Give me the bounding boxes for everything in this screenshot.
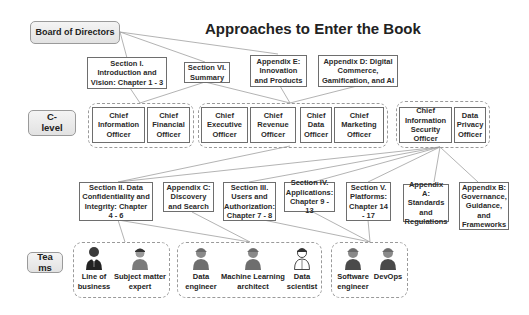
cmo-box: Chief Marketing Officer: [334, 107, 384, 143]
person-software-engineer: Software engineer: [333, 246, 373, 292]
section-iv-box: Section IV. Applications: Chapter 9 - 13: [284, 182, 335, 212]
level-label-teams: Tea ms: [27, 252, 63, 273]
section-iii-box: Section III. Users and Authorization: Ch…: [223, 182, 276, 221]
appendix-c-box: Appendix C: Discovery and Search: [163, 182, 214, 212]
cio-box: Chief Information Officer: [92, 107, 145, 143]
section-vi-box: Section VI. Summary: [184, 62, 230, 83]
person-label: Data engineer: [180, 272, 222, 292]
section-ii-box: Section II. Data Confidentiality and Int…: [79, 182, 153, 221]
section-i-box: Section I. Introduction and Vision: Chap…: [87, 57, 167, 89]
ceo-box: Chief Executive Officer: [201, 107, 248, 143]
person-data-engineer: Data engineer: [180, 246, 222, 292]
expert-person-icon: [131, 246, 149, 270]
engineer-helmet-icon: [244, 246, 262, 270]
engineer-helmet-icon: [192, 246, 210, 270]
appendix-d-box: Appendix D: Digital Commerce, Gamificati…: [318, 55, 398, 87]
level-label-board: Board of Directors: [30, 21, 120, 44]
cfo-box: Chief Financial Officer: [147, 107, 190, 143]
section-v-box: Section V. Platforms: Chapter 14 - 17: [346, 182, 391, 221]
cro-box: Chief Revenue Officer: [250, 107, 296, 143]
person-devops: DevOps: [371, 246, 405, 282]
cdo-box: Chief Data Officer: [300, 107, 332, 143]
person-label: Software engineer: [333, 272, 373, 292]
businessman-icon: [85, 246, 103, 270]
scientist-outline-icon: [293, 246, 311, 270]
appendix-b-box: Appendix B: Governance, Guidance, and Fr…: [459, 182, 509, 230]
engineer-helmet-icon: [379, 246, 397, 270]
person-subject-matter-expert: Subject matter expert: [113, 246, 167, 292]
person-ml-architect: Machine Learning architect: [221, 246, 285, 292]
appendix-e-box: Appendix E: Innovation and Products: [250, 55, 307, 87]
ciso-box: Chief Information Security Officer: [399, 107, 452, 143]
diagram-title: Approaches to Enter the Book: [205, 20, 421, 37]
person-line-of-business: Line of business: [76, 246, 112, 292]
level-label-clevel: C- level: [28, 110, 76, 136]
person-label: Machine Learning architect: [221, 272, 285, 292]
person-data-scientist: Data scientist: [284, 246, 320, 292]
person-label: Line of business: [76, 272, 112, 292]
person-label: Subject matter expert: [113, 272, 167, 292]
person-label: Data scientist: [284, 272, 320, 292]
dpo-box: Data Privacy Officer: [454, 107, 486, 143]
appendix-a-box: Appendix A: Standards and Regulations: [403, 184, 449, 222]
person-label: DevOps: [374, 272, 402, 282]
engineer-helmet-icon: [344, 246, 362, 270]
